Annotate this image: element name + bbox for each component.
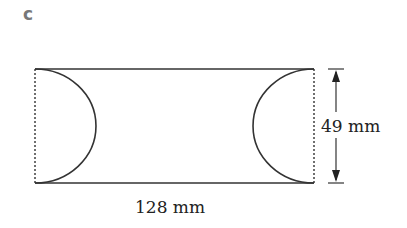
right-semicircle bbox=[253, 69, 314, 183]
height-label: 49 mm bbox=[321, 116, 380, 136]
arrow-up-icon bbox=[332, 70, 340, 82]
arrow-down-icon bbox=[332, 170, 340, 182]
left-semicircle bbox=[35, 69, 96, 183]
shape-diagram: 49 mm 128 mm bbox=[0, 0, 407, 228]
width-label: 128 mm bbox=[135, 197, 205, 217]
